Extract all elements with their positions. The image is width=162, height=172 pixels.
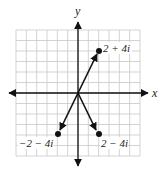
- label-2-minus-4i: 2 − 4i: [101, 137, 128, 149]
- point-2-plus-4i: [96, 48, 102, 54]
- point-neg2-minus-4i: [55, 131, 61, 137]
- label-neg2-minus-4i: −2 − 4i: [19, 137, 53, 149]
- vector-2-plus-4i: [78, 54, 97, 93]
- y-axis-label: y: [74, 4, 81, 18]
- vectors: 2 + 4i −2 − 4i 2 − 4i: [18, 42, 132, 149]
- x-axis-label: x: [151, 86, 158, 100]
- label-2-plus-4i: 2 + 4i: [103, 42, 130, 54]
- complex-plane-diagram: x y 2 + 4i −2 − 4i 2 − 4i: [0, 0, 162, 172]
